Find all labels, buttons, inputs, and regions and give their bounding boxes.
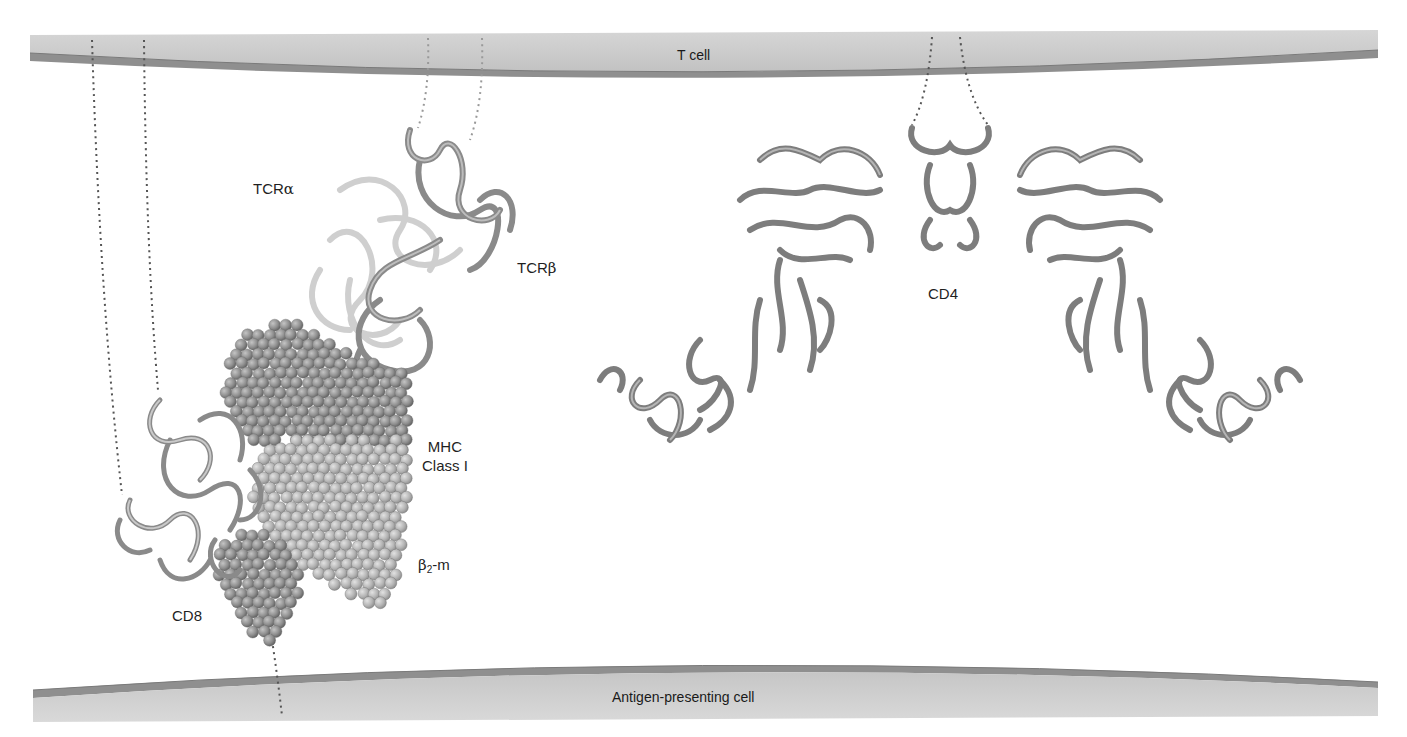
mhc-label-line1: MHC [422, 437, 468, 456]
b2m-suffix: -m [432, 556, 450, 573]
tcr-beta-prefix: TCR [517, 259, 548, 276]
t-cell-label: T cell [677, 46, 710, 64]
tcr-beta-label: TCRβ [517, 259, 557, 277]
diagram-canvas [0, 0, 1407, 737]
membrane-tethers [92, 37, 988, 716]
tcr-mhc-cd4-cd8-diagram: T cell Antigen-presenting cell TCRα TCRβ… [0, 0, 1407, 737]
cd8-tether-1 [92, 40, 122, 495]
cd8-tether-2 [144, 40, 158, 390]
cd4-label: CD4 [928, 285, 958, 303]
tcr-alpha-prefix: TCR [253, 180, 284, 197]
cd8-label: CD8 [172, 607, 202, 625]
mhc-class-i-label: MHC Class I [422, 437, 468, 475]
b2m-label: β2-m [418, 556, 450, 579]
cd4-structure [600, 128, 1300, 440]
tcr-alpha-greek: α [284, 180, 294, 198]
b2m-greek: β [418, 556, 427, 574]
tcr-alpha-label: TCRα [253, 180, 294, 198]
tcr-beta-greek: β [548, 259, 557, 277]
apc-label: Antigen-presenting cell [612, 688, 754, 706]
mhc-label-line2: Class I [422, 456, 468, 475]
